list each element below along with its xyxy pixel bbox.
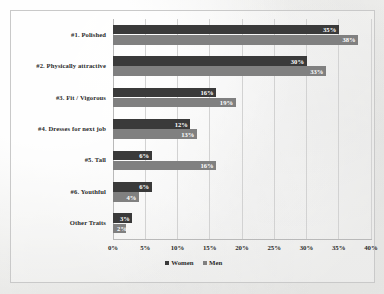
- x-axis-tick-label: 10%: [164, 244, 192, 251]
- gridline-x-20: [242, 19, 243, 239]
- bar-value-label-men: 33%: [113, 68, 323, 75]
- legend-label: Men: [209, 259, 222, 266]
- x-axis-tick-label: 40%: [357, 244, 384, 251]
- bar-value-label-women: 6%: [113, 183, 149, 190]
- bar-value-label-women: 3%: [113, 215, 130, 222]
- x-axis-tick-label: 15%: [196, 244, 224, 251]
- bar-value-label-women: 35%: [113, 26, 336, 33]
- bar-value-label-women: 16%: [113, 89, 214, 96]
- bar-value-label-men: 13%: [113, 131, 194, 138]
- x-axis-tick-label: 20%: [228, 244, 256, 251]
- legend-label: Women: [171, 259, 193, 266]
- x-axis-tick-label: 0%: [99, 244, 127, 251]
- category-label: #1. Polished: [11, 31, 106, 38]
- gridline-x-15: [209, 19, 210, 239]
- category-label: #2. Physically attractive: [11, 62, 106, 69]
- gridline-x-30: [306, 19, 307, 239]
- gridline-x-25: [274, 19, 275, 239]
- legend-item-women[interactable]: Women: [165, 259, 194, 266]
- chart-legend: WomenMen: [11, 259, 376, 266]
- gridline-x-35: [338, 19, 339, 239]
- bar-value-label-women: 30%: [113, 58, 304, 65]
- legend-swatch-icon: [203, 261, 207, 265]
- legend-item-men[interactable]: Men: [203, 259, 223, 266]
- bar-value-label-men: 19%: [113, 99, 233, 106]
- bar-value-label-men: 38%: [113, 36, 356, 43]
- gridline-x-40: [371, 19, 372, 239]
- bar-value-label-men: 2%: [113, 225, 127, 232]
- chart-frame: 0%5%10%15%20%25%30%35%40%#1. Polished35%…: [10, 10, 375, 283]
- category-label: #6. Youthful: [11, 188, 106, 195]
- bar-value-label-men: 16%: [113, 162, 214, 169]
- x-axis-tick-label: 25%: [260, 244, 288, 251]
- value-axis-line: [113, 239, 372, 240]
- category-label: Other Traits: [11, 219, 106, 226]
- bar-value-label-women: 6%: [113, 152, 149, 159]
- category-label: #5. Tall: [11, 156, 106, 163]
- x-axis-tick-label: 30%: [293, 244, 321, 251]
- bar-value-label-men: 4%: [113, 194, 136, 201]
- x-axis-tick-label: 5%: [131, 244, 159, 251]
- category-label: #4. Dresses for next job: [11, 125, 106, 132]
- category-label: #3. Fit / Vigorous: [11, 94, 106, 101]
- legend-swatch-icon: [165, 261, 169, 265]
- x-axis-tick-label: 35%: [325, 244, 353, 251]
- bar-value-label-women: 12%: [113, 121, 188, 128]
- bar-chart: 0%5%10%15%20%25%30%35%40%#1. Polished35%…: [11, 11, 374, 282]
